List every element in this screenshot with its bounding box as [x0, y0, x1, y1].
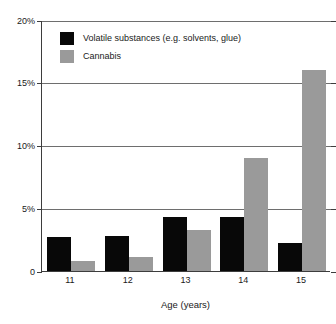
- y-axis-tick-label: 20%: [0, 17, 35, 26]
- chart-legend: Volatile substances (e.g. solvents, glue…: [60, 29, 241, 65]
- legend-label: Cannabis: [83, 51, 121, 61]
- y-axis-tick-label: 10%: [0, 142, 35, 151]
- bar-cannabis-age-11: [71, 261, 95, 271]
- tick-mark-left-20pct: [37, 21, 42, 22]
- tick-mark-left-10pct: [37, 146, 42, 147]
- legend-swatch-volatile: [60, 32, 74, 45]
- legend-item: Cannabis: [60, 47, 241, 65]
- bar-volatile-age-14: [220, 217, 244, 271]
- tick-mark-right-5pct: [331, 209, 336, 210]
- tick-mark-right-0: [331, 272, 336, 273]
- x-axis-tick-label: 15: [281, 276, 321, 285]
- tick-mark-left-5pct: [37, 209, 42, 210]
- bar-volatile-age-11: [47, 237, 71, 271]
- x-axis-tick-label: 14: [223, 276, 263, 285]
- tick-mark-left-0: [37, 272, 42, 273]
- bar-cannabis-age-13: [187, 230, 211, 271]
- bar-cannabis-age-15: [302, 70, 326, 271]
- bar-volatile-age-13: [163, 217, 187, 271]
- y-axis-tick-label: 0: [0, 268, 35, 277]
- tick-mark-right-15pct: [331, 83, 336, 84]
- legend-swatch-cannabis: [60, 50, 74, 63]
- tick-mark-left-15pct: [37, 83, 42, 84]
- bar-cannabis-age-12: [129, 257, 153, 271]
- x-axis-tick-label: 11: [50, 276, 90, 285]
- tick-mark-right-10pct: [331, 146, 336, 147]
- gridline-20pct: [42, 21, 331, 22]
- legend-label: Volatile substances (e.g. solvents, glue…: [83, 33, 241, 43]
- bar-cannabis-age-14: [244, 158, 268, 271]
- tick-mark-right-20pct: [331, 21, 336, 22]
- legend-item: Volatile substances (e.g. solvents, glue…: [60, 29, 241, 47]
- gridline-5pct: [42, 209, 331, 210]
- gridline-10pct: [42, 146, 331, 147]
- gridline-15pct: [42, 83, 331, 84]
- x-axis-title: Age (years): [41, 299, 330, 310]
- bar-volatile-age-15: [278, 243, 302, 271]
- x-axis-tick-label: 13: [166, 276, 206, 285]
- y-axis-tick-label: 15%: [0, 79, 35, 88]
- y-axis-tick-label: 5%: [0, 205, 35, 214]
- bar-volatile-age-12: [105, 236, 129, 271]
- x-axis-tick-label: 12: [108, 276, 148, 285]
